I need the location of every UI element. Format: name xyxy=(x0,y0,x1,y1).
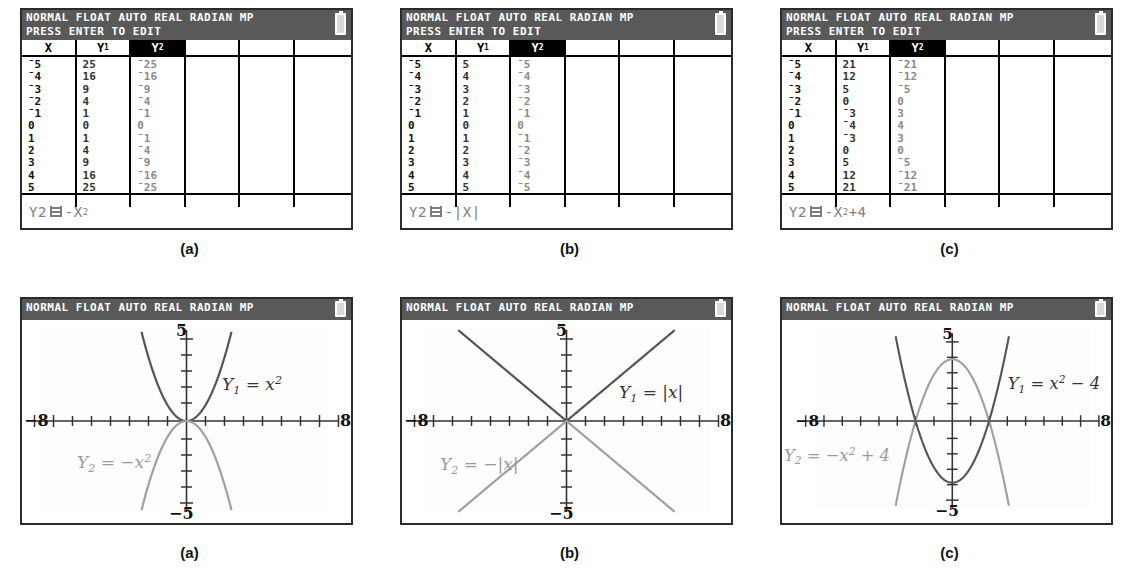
column-header-y2[interactable]: Y2 xyxy=(131,40,186,55)
column-header-y1[interactable]: Y1 xyxy=(837,40,892,55)
table-cell[interactable]: ¯4 xyxy=(517,71,564,83)
table-cell[interactable]: 0 xyxy=(28,120,75,132)
table-cell[interactable]: 5 xyxy=(463,59,510,71)
column-x-values[interactable]: ¯5¯4¯3¯2¯1012345 xyxy=(782,57,837,207)
table-cell[interactable]: ¯3 xyxy=(517,157,564,169)
table-cell[interactable]: 1 xyxy=(788,133,835,145)
column-header-empty-1[interactable] xyxy=(186,40,241,55)
table-cell[interactable]: 0 xyxy=(83,120,130,132)
table-cell[interactable]: ¯5 xyxy=(897,157,944,169)
table-cell[interactable]: 1 xyxy=(83,133,130,145)
column-y1-values[interactable]: 251694101491625 xyxy=(77,57,132,207)
table-cell[interactable]: 9 xyxy=(83,84,130,96)
graph-area[interactable]: −8 8 5 −5 Y1 = x2 − 4 Y2 = −x2 + 4 xyxy=(782,320,1111,523)
column-header-y2[interactable]: Y2 xyxy=(891,40,946,55)
table-cell[interactable]: 3 xyxy=(463,84,510,96)
column-x-values[interactable]: ¯5¯4¯3¯2¯1012345 xyxy=(402,57,457,207)
table-cell[interactable]: ¯16 xyxy=(137,71,184,83)
table-cell[interactable]: 0 xyxy=(897,96,944,108)
table-cell[interactable]: 3 xyxy=(897,108,944,120)
table-cell[interactable]: 3 xyxy=(463,157,510,169)
column-y2-values[interactable]: ¯21¯12¯503430¯5¯12¯21 xyxy=(891,57,946,207)
table-cell[interactable]: 5 xyxy=(843,84,890,96)
table-cell[interactable]: ¯1 xyxy=(408,108,455,120)
column-x-values[interactable]: ¯5¯4¯3¯2¯1012345 xyxy=(22,57,77,207)
graph-area[interactable]: −8 8 5 −5 Y1 = |x| Y2 = −|x| xyxy=(402,320,731,523)
table-cell[interactable]: 4 xyxy=(408,170,455,182)
table-cell[interactable]: 3 xyxy=(408,157,455,169)
table-cell[interactable]: 4 xyxy=(28,170,75,182)
column-header-y1[interactable]: Y1 xyxy=(457,40,512,55)
column-header-y2[interactable]: Y2 xyxy=(511,40,566,55)
table-cell[interactable]: ¯1 xyxy=(788,108,835,120)
column-header-empty-1[interactable] xyxy=(946,40,1001,55)
table-cell[interactable]: ¯4 xyxy=(788,71,835,83)
table-cell[interactable]: 2 xyxy=(463,145,510,157)
table-cell[interactable]: 4 xyxy=(897,120,944,132)
table-cell[interactable]: ¯1 xyxy=(28,108,75,120)
table-cell[interactable]: 0 xyxy=(843,145,890,157)
column-y1-values[interactable]: 54321012345 xyxy=(457,57,512,207)
table-cell[interactable]: 4 xyxy=(83,96,130,108)
column-header-y1[interactable]: Y1 xyxy=(77,40,132,55)
column-empty-1[interactable] xyxy=(566,57,621,207)
formula-bar[interactable]: Y2-X2+4 xyxy=(782,193,1111,228)
column-header-empty-3[interactable] xyxy=(675,40,731,55)
column-empty-2[interactable] xyxy=(620,57,675,207)
table-cell[interactable]: ¯9 xyxy=(137,157,184,169)
table-cell[interactable]: 4 xyxy=(463,170,510,182)
table-cell[interactable]: 0 xyxy=(517,120,564,132)
column-header-empty-3[interactable] xyxy=(1055,40,1111,55)
table-cell[interactable]: 0 xyxy=(463,120,510,132)
column-empty-2[interactable] xyxy=(240,57,295,207)
column-empty-3[interactable] xyxy=(675,57,731,207)
table-cell[interactable]: ¯5 xyxy=(897,84,944,96)
table-cell[interactable]: 12 xyxy=(843,71,890,83)
column-empty-1[interactable] xyxy=(946,57,1001,207)
table-cell[interactable]: 9 xyxy=(83,157,130,169)
table-cell[interactable]: ¯4 xyxy=(28,71,75,83)
column-header-empty-2[interactable] xyxy=(620,40,675,55)
column-header-x[interactable]: X xyxy=(782,40,837,55)
table-cell[interactable]: 1 xyxy=(408,133,455,145)
formula-bar[interactable]: Y2-|X| xyxy=(402,193,731,228)
table-cell[interactable]: 4 xyxy=(83,145,130,157)
table-cell[interactable]: ¯3 xyxy=(843,133,890,145)
table-cell[interactable]: 0 xyxy=(408,120,455,132)
table-cell[interactable]: ¯4 xyxy=(408,71,455,83)
column-header-x[interactable]: X xyxy=(402,40,457,55)
table-cell[interactable]: 2 xyxy=(408,145,455,157)
column-y1-values[interactable]: 211250¯3¯4¯3051221 xyxy=(837,57,892,207)
table-cell[interactable]: 1 xyxy=(83,108,130,120)
column-header-empty-1[interactable] xyxy=(566,40,621,55)
table-cell[interactable]: 4 xyxy=(788,170,835,182)
column-y2-values[interactable]: ¯25¯16¯9¯4¯10¯1¯4¯9¯16¯25 xyxy=(131,57,186,207)
column-header-empty-2[interactable] xyxy=(240,40,295,55)
column-empty-3[interactable] xyxy=(295,57,351,207)
table-cell[interactable]: 3 xyxy=(788,157,835,169)
table-cell[interactable]: 2 xyxy=(463,96,510,108)
table-cell[interactable]: 5 xyxy=(843,157,890,169)
table-cell[interactable]: 1 xyxy=(463,108,510,120)
column-empty-1[interactable] xyxy=(186,57,241,207)
table-cell[interactable]: 3 xyxy=(897,133,944,145)
column-empty-2[interactable] xyxy=(1000,57,1055,207)
table-cell[interactable]: 2 xyxy=(28,145,75,157)
table-cell[interactable]: ¯12 xyxy=(897,71,944,83)
table-cell[interactable]: ¯1 xyxy=(517,108,564,120)
table-cell[interactable]: 0 xyxy=(137,120,184,132)
table-cell[interactable]: 16 xyxy=(83,71,130,83)
column-header-empty-2[interactable] xyxy=(1000,40,1055,55)
table-cell[interactable]: 1 xyxy=(463,133,510,145)
table-cell[interactable]: ¯4 xyxy=(843,120,890,132)
table-cell[interactable]: 1 xyxy=(28,133,75,145)
column-header-empty-3[interactable] xyxy=(295,40,351,55)
column-empty-3[interactable] xyxy=(1055,57,1111,207)
column-y2-values[interactable]: ¯5¯4¯3¯2¯10¯1¯2¯3¯4¯5 xyxy=(511,57,566,207)
table-cell[interactable]: 0 xyxy=(788,120,835,132)
formula-bar[interactable]: Y2-X2 xyxy=(22,193,351,228)
graph-area[interactable]: −8 8 5 −5 Y1 = x2 Y2 = −x2 xyxy=(22,320,351,523)
table-cell[interactable]: 3 xyxy=(28,157,75,169)
table-cell[interactable]: 2 xyxy=(788,145,835,157)
table-cell[interactable]: ¯1 xyxy=(137,108,184,120)
